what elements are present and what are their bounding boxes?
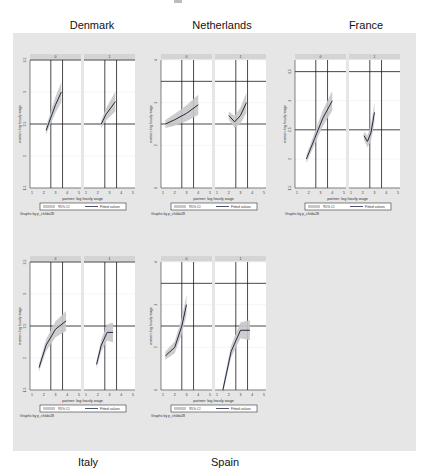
facet-label: 1 xyxy=(374,55,376,59)
y-tick-label: 3.5 xyxy=(23,260,27,265)
y-tick-label: 2.5 xyxy=(23,122,27,127)
x-tick-label: 2 xyxy=(362,191,364,195)
panel-netherlands: 1234women: log hourly wage012345112345pa… xyxy=(147,40,275,240)
legend-fit-label: Fitted values xyxy=(365,205,385,209)
chart-svg: 1234women: log hourly wage012345112345pa… xyxy=(147,242,275,442)
x-tick-label: 3 xyxy=(320,191,322,195)
y-tick-label: 2.5 xyxy=(288,127,292,132)
facet-label: 1 xyxy=(240,257,242,261)
x-tick-label: 2 xyxy=(97,191,99,195)
x-axis-label: partner: log hourly wage xyxy=(62,197,103,201)
x-tick-label: 4 xyxy=(197,191,199,195)
x-tick-label: 3 xyxy=(55,393,57,397)
x-tick-label: 4 xyxy=(197,393,199,397)
x-tick-label: 1 xyxy=(350,191,352,195)
x-tick-label: 4 xyxy=(385,191,387,195)
x-tick-label: 4 xyxy=(66,191,68,195)
facet-label: 0 xyxy=(320,55,322,59)
x-tick-label: 1 xyxy=(162,393,164,397)
y-tick-label: 3 xyxy=(154,102,158,104)
x-tick-label: 5 xyxy=(397,191,399,195)
y-tick-label: 3 xyxy=(154,304,158,306)
y-axis-label: women: log hourly wage xyxy=(149,105,153,143)
facet-label: 0 xyxy=(186,257,188,261)
facet-label: 0 xyxy=(55,257,57,261)
x-tick-label: 1 xyxy=(85,191,87,195)
x-tick-label: 5 xyxy=(263,393,265,397)
y-tick-label: 3 xyxy=(23,91,27,93)
x-tick-label: 5 xyxy=(263,191,265,195)
y-tick-label: 2 xyxy=(23,155,27,157)
y-tick-label: 1 xyxy=(154,389,158,391)
y-axis-label: women: log hourly wage xyxy=(18,307,22,345)
x-axis-label: partner: log hourly wage xyxy=(193,197,234,201)
graph-note: Graphs by p_childo28 xyxy=(151,414,185,418)
graph-note: Graphs by p_childo28 xyxy=(20,212,54,216)
x-tick-label: 1 xyxy=(85,393,87,397)
facet-label: 0 xyxy=(186,55,188,59)
facet-label: 0 xyxy=(55,55,57,59)
y-axis-label: women: log hourly wage xyxy=(149,307,153,345)
cropped-title-fragment xyxy=(174,0,182,3)
x-tick-label: 5 xyxy=(132,191,134,195)
panel-spain: 1234women: log hourly wage012345112345pa… xyxy=(147,242,275,442)
x-tick-label: 3 xyxy=(240,393,242,397)
graph-note: Graphs by p_childo28 xyxy=(285,212,319,216)
x-tick-label: 2 xyxy=(174,393,176,397)
panel-france: 1.522.533.5women: log hourly wage0123451… xyxy=(281,40,409,240)
x-tick-label: 4 xyxy=(331,191,333,195)
x-tick-label: 4 xyxy=(120,393,122,397)
y-tick-label: 2 xyxy=(23,357,27,359)
legend-ci-label: 95% CI xyxy=(189,205,201,209)
x-tick-label: 2 xyxy=(97,393,99,397)
x-tick-label: 3 xyxy=(186,191,188,195)
x-tick-label: 1 xyxy=(296,191,298,195)
legend-ci-label: 95% CI xyxy=(58,407,70,411)
x-tick-label: 3 xyxy=(55,191,57,195)
x-tick-label: 5 xyxy=(78,191,80,195)
legend-ci-label: 95% CI xyxy=(323,205,335,209)
facet-label: 1 xyxy=(109,257,111,261)
graph-note: Graphs by p_childo28 xyxy=(20,414,54,418)
legend-fit-label: Fitted values xyxy=(100,205,120,209)
x-tick-label: 4 xyxy=(120,191,122,195)
graph-note: Graphs by p_childo28 xyxy=(151,212,185,216)
y-tick-label: 3 xyxy=(288,100,292,102)
chart-svg: 1.522.533.5women: log hourly wage0123451… xyxy=(281,40,409,240)
chart-svg: 1.522.533.5women: log hourly wage0123451… xyxy=(16,40,144,240)
x-tick-label: 3 xyxy=(374,191,376,195)
x-tick-label: 1 xyxy=(162,191,164,195)
x-tick-label: 4 xyxy=(66,393,68,397)
panel-italy: 1.522.533.5women: log hourly wage0123451… xyxy=(16,242,144,442)
x-tick-label: 4 xyxy=(251,191,253,195)
title-italy: Italy xyxy=(28,456,148,468)
x-tick-label: 2 xyxy=(174,191,176,195)
y-axis-label: women: log hourly wage xyxy=(283,105,287,143)
y-tick-label: 4 xyxy=(154,59,158,61)
title-france: France xyxy=(306,19,426,31)
chart-svg: 1234women: log hourly wage012345112345pa… xyxy=(147,40,275,240)
y-tick-label: 1.5 xyxy=(23,388,27,393)
legend-fit-label: Fitted values xyxy=(231,407,251,411)
x-tick-label: 2 xyxy=(228,191,230,195)
chart-svg: 1.522.533.5women: log hourly wage0123451… xyxy=(16,242,144,442)
title-netherlands: Netherlands xyxy=(162,19,282,31)
x-tick-label: 3 xyxy=(240,191,242,195)
y-tick-label: 2 xyxy=(288,158,292,160)
y-tick-label: 1.5 xyxy=(288,186,292,191)
y-tick-label: 2 xyxy=(154,144,158,146)
legend-fit-label: Fitted values xyxy=(231,205,251,209)
x-tick-label: 1 xyxy=(216,191,218,195)
y-tick-label: 2.5 xyxy=(23,324,27,329)
x-tick-label: 5 xyxy=(209,191,211,195)
facet-label: 1 xyxy=(109,55,111,59)
y-tick-label: 3.5 xyxy=(288,69,292,74)
x-tick-label: 5 xyxy=(132,393,134,397)
x-tick-label: 3 xyxy=(109,191,111,195)
facet-label: 1 xyxy=(240,55,242,59)
x-tick-label: 4 xyxy=(251,393,253,397)
title-spain: Spain xyxy=(165,456,285,468)
x-tick-label: 3 xyxy=(109,393,111,397)
x-tick-label: 5 xyxy=(209,393,211,397)
x-axis-label: partner: log hourly wage xyxy=(193,399,234,403)
